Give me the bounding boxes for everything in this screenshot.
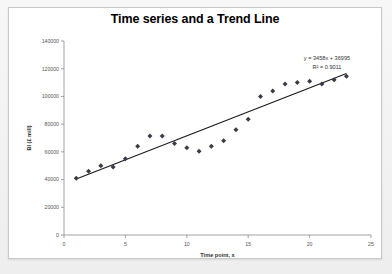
x-axis-tick-label: 15 — [245, 241, 251, 247]
data-point-marker — [270, 88, 275, 93]
data-point-marker — [209, 144, 214, 149]
y-axis-tick-label: 80000 — [45, 121, 60, 127]
data-point-marker — [258, 94, 263, 99]
trend-line — [76, 74, 346, 179]
data-point-marker — [184, 145, 189, 150]
chart-frame: Time series and a Trend Line 02000040000… — [8, 7, 382, 259]
data-point-marker — [307, 79, 312, 84]
y-axis-tick-label: 0 — [56, 232, 59, 238]
data-point-marker — [98, 163, 103, 168]
y-axis-title: BI (£ mill) — [26, 125, 32, 150]
data-point-marker — [283, 81, 288, 86]
data-point-marker — [135, 144, 140, 149]
data-point-marker — [295, 80, 300, 85]
x-axis-title: Time point, x — [200, 252, 235, 258]
data-point-marker — [74, 176, 79, 181]
data-point-marker — [221, 138, 226, 143]
x-axis-tick-label: 5 — [124, 241, 127, 247]
data-point-marker — [160, 133, 165, 138]
data-point-marker — [246, 117, 251, 122]
data-point-marker — [233, 127, 238, 132]
trendline-equation-label: y = 3458x + 36995 — [304, 55, 350, 61]
y-axis-tick-label: 100000 — [42, 93, 59, 99]
data-point-marker — [197, 149, 202, 154]
y-axis-tick-label: 140000 — [42, 38, 59, 44]
x-axis-tick-label: 25 — [368, 241, 374, 247]
y-axis-tick-label: 120000 — [42, 66, 59, 72]
data-point-marker — [147, 133, 152, 138]
y-axis-tick-label: 40000 — [45, 176, 60, 182]
x-axis-tick-label: 20 — [307, 241, 313, 247]
y-axis-tick-label: 60000 — [45, 149, 60, 155]
x-axis-tick-label: 0 — [63, 241, 66, 247]
r-squared-label: R² = 0.9011 — [313, 64, 342, 70]
y-axis-tick-label: 20000 — [45, 204, 60, 210]
chart-area: Time series and a Trend Line 02000040000… — [9, 8, 381, 258]
screenshot-root: Time series and a Trend Line 02000040000… — [0, 0, 392, 274]
x-axis-tick-label: 10 — [184, 241, 190, 247]
plot-svg: 0200004000060000800001000001200001400000… — [9, 8, 383, 260]
